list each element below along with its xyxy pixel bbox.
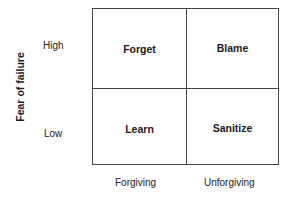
y-label-low: Low <box>44 128 62 139</box>
quadrant-learn: Learn <box>93 123 186 135</box>
y-label-high: High <box>43 40 64 51</box>
quadrant-sanitize: Sanitize <box>186 122 279 134</box>
grid-divider-vertical <box>186 9 187 164</box>
grid-divider-horizontal <box>93 88 278 89</box>
quadrant-forget: Forget <box>93 43 186 55</box>
x-label-forgiving: Forgiving <box>115 177 156 188</box>
quadrant-blame: Blame <box>186 42 279 54</box>
y-axis-title: Fear of failure <box>14 52 26 121</box>
x-label-unforgiving: Unforgiving <box>204 177 255 188</box>
quadrant-grid: Forget Blame Learn Sanitize <box>92 8 279 165</box>
